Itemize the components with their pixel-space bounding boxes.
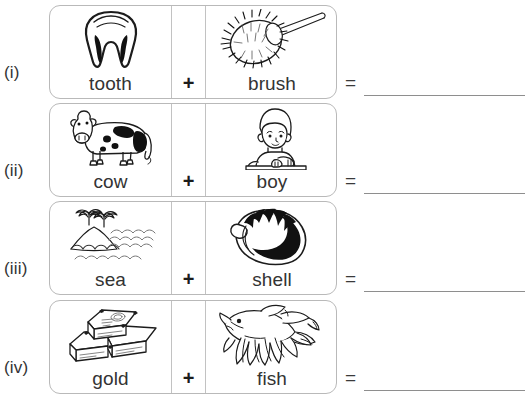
equals-symbol: =	[345, 73, 356, 92]
word-label: gold	[50, 368, 171, 390]
word-label: tooth	[50, 73, 171, 95]
picture-cell-left: cow	[50, 104, 171, 196]
problem-row: (i) tooth +	[0, 4, 525, 100]
picture-cell-right: brush	[206, 6, 337, 98]
plus-symbol: +	[172, 171, 205, 191]
answer-blank[interactable]	[364, 291, 525, 292]
equals-symbol: =	[345, 171, 356, 190]
word-pair-card: sea +	[49, 201, 337, 295]
cow-icon	[50, 105, 171, 171]
picture-cell-right: fish	[206, 301, 337, 393]
answer-blank[interactable]	[364, 95, 525, 96]
boy-icon	[206, 105, 337, 171]
operator-cell: +	[171, 202, 206, 294]
answer-blank[interactable]	[364, 390, 525, 391]
sea-icon	[50, 203, 171, 269]
plus-symbol: +	[172, 368, 205, 388]
problem-numeral: (i)	[4, 64, 46, 81]
brush-icon	[206, 7, 337, 73]
shell-icon	[206, 203, 337, 269]
problem-row: (ii)	[0, 102, 525, 198]
picture-cell-right: boy	[206, 104, 337, 196]
word-label: fish	[206, 368, 337, 390]
worksheet-sheet: (i) tooth +	[0, 0, 525, 408]
picture-cell-left: gold	[50, 301, 171, 393]
word-label: boy	[206, 171, 337, 193]
problem-row: (iii)	[0, 200, 525, 296]
gold-icon	[50, 302, 171, 368]
answer-blank[interactable]	[364, 193, 525, 194]
word-pair-card: cow +	[49, 103, 337, 197]
word-label: sea	[50, 269, 171, 291]
picture-cell-right: shell	[206, 202, 337, 294]
word-label: brush	[206, 73, 337, 95]
problem-numeral: (iv)	[4, 359, 46, 376]
plus-symbol: +	[172, 269, 205, 289]
equals-symbol: =	[345, 269, 356, 288]
picture-cell-left: sea	[50, 202, 171, 294]
fish-icon	[206, 302, 337, 368]
equals-symbol: =	[345, 368, 356, 387]
operator-cell: +	[171, 301, 206, 393]
picture-cell-left: tooth	[50, 6, 171, 98]
plus-symbol: +	[172, 73, 205, 93]
word-pair-card: gold +	[49, 300, 337, 394]
word-label: shell	[206, 269, 337, 291]
word-label: cow	[50, 171, 171, 193]
tooth-icon	[50, 7, 171, 73]
problem-row: (iv)	[0, 299, 525, 395]
problem-numeral: (iii)	[4, 260, 46, 277]
problem-numeral: (ii)	[4, 162, 46, 179]
word-pair-card: tooth +	[49, 5, 337, 99]
operator-cell: +	[171, 104, 206, 196]
operator-cell: +	[171, 6, 206, 98]
